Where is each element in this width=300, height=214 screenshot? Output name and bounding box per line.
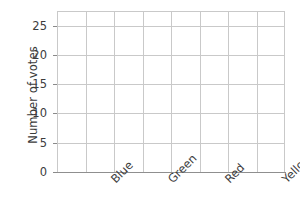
x-tick-label-green: Green xyxy=(165,151,200,186)
x-tick-label-red: Red xyxy=(222,161,247,186)
x-axis-tick-labels: BlueGreenRedYellow xyxy=(0,0,300,214)
x-tick-label-yellow: Yellow xyxy=(279,151,300,186)
votes-bar-chart: Number of votes 0510152025 BlueGreenRedY… xyxy=(0,0,300,214)
x-tick-label-blue: Blue xyxy=(108,158,136,186)
